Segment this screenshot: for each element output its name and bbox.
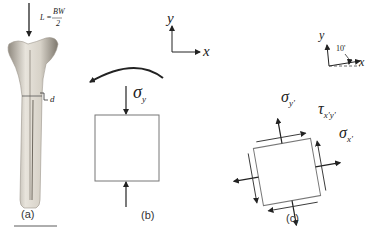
axis-x-label-c: x [359,55,364,70]
caption-b: (b) [141,209,154,221]
sigma-x-prime-label: σx' [339,124,353,142]
angle-label: 10' [336,44,345,53]
load-denominator: 2 [56,19,60,28]
axis-y-label-c: y [319,28,324,43]
load-label: L = [40,13,52,22]
sigma-y-label: σy [133,82,146,103]
depth-label: d [50,94,55,104]
sigma-y-prime-label: σy' [281,88,295,106]
tau-xy-prime-label: τx'y' [318,100,336,118]
caption-a: (a) [21,208,34,220]
load-numerator: BW [53,7,65,16]
caption-c: (c) [286,212,299,224]
tibia-bone-illustration [8,38,58,208]
stress-element-b [95,115,159,181]
axis-y-label-b: y [167,10,174,27]
rotation-arrow [90,68,163,82]
diagram-graphics [0,0,373,238]
bone-stress-diagram: L = BW 2 d (a) y x σy (b) y x 10' σy' τx… [0,0,373,238]
axis-x-label-b: x [203,43,210,60]
